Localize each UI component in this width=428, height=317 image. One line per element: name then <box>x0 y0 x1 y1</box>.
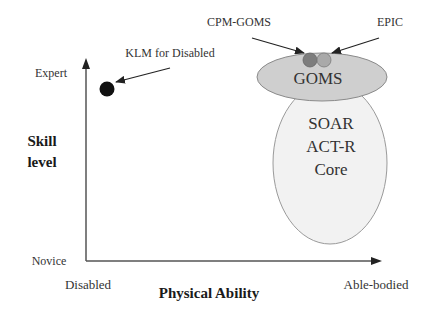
x-axis-arrowhead-icon <box>371 257 382 265</box>
y-axis-top-label: Expert <box>35 66 68 80</box>
core-region-label-core: Core <box>314 160 347 179</box>
cpm-goms-label: CPM-GOMS <box>207 15 271 29</box>
y-axis-bottom-label: Novice <box>32 254 67 268</box>
epic-point <box>317 53 331 67</box>
core-region-label-soar: SOAR <box>308 114 354 133</box>
goms-region-label: GOMS <box>293 69 342 88</box>
klm-for-disabled-point <box>100 82 115 97</box>
cpm-goms-point <box>303 53 317 67</box>
y-axis-title-line2: level <box>27 154 56 170</box>
y-axis-title-line1: Skill <box>27 133 56 149</box>
x-axis-title: Physical Ability <box>159 285 260 301</box>
diagram-canvas: CPM-GOMS EPIC KLM for Disabled GOMS SOAR… <box>0 0 428 317</box>
diagram-svg: CPM-GOMS EPIC KLM for Disabled GOMS SOAR… <box>0 0 428 317</box>
klm-callout-arrow <box>116 68 170 82</box>
x-axis-right-label: Able-bodied <box>344 277 409 292</box>
x-axis-left-label: Disabled <box>65 277 112 292</box>
y-axis-arrowhead-icon <box>82 58 90 69</box>
cpm-goms-callout-arrow <box>252 38 304 53</box>
epic-label: EPIC <box>377 15 403 29</box>
klm-for-disabled-label: KLM for Disabled <box>125 46 214 60</box>
epic-callout-arrow <box>332 38 379 53</box>
core-region-label-actr: ACT-R <box>306 137 356 156</box>
